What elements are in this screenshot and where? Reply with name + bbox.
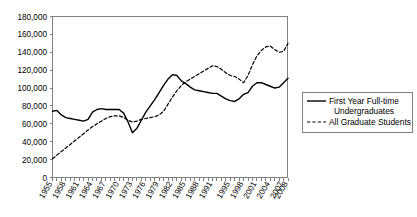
y-axis-tick-labels: 180,000160,000140,000120,000100,00080,00… bbox=[17, 13, 47, 183]
legend-label-graduates-line1: All Graduate Students bbox=[329, 117, 411, 127]
chart-figure: 180,000160,000140,000120,000100,00080,00… bbox=[0, 0, 417, 217]
y-axis-tick-label: 60,000 bbox=[22, 120, 47, 129]
series-lines bbox=[53, 43, 289, 158]
y-axis-tick-label: 120,000 bbox=[17, 66, 47, 75]
y-axis-tick-label: 100,000 bbox=[17, 84, 47, 93]
series-line-solid bbox=[53, 75, 289, 133]
y-axis-tick-label: 160,000 bbox=[17, 30, 47, 39]
x-axis-tick-label: 1991 bbox=[197, 180, 214, 201]
y-axis-tick-label: 140,000 bbox=[17, 48, 47, 57]
line-chart: 180,000160,000140,000120,000100,00080,00… bbox=[0, 0, 417, 217]
legend-label-undergraduates-line1: First Year Full-time bbox=[329, 96, 399, 106]
y-axis-tick-label: 20,000 bbox=[22, 156, 47, 165]
series-line-dashed bbox=[53, 43, 289, 158]
legend: First Year Full-time Undergraduates All … bbox=[303, 93, 413, 133]
y-axis-tick-label: 40,000 bbox=[22, 138, 47, 147]
y-axis-tick-label: 180,000 bbox=[17, 13, 47, 22]
y-axis-tick-label: 80,000 bbox=[22, 102, 47, 111]
legend-label-undergraduates-line2: Undergraduates bbox=[334, 106, 394, 116]
x-axis-tick-labels: 1955195819611964196719701973197619791982… bbox=[37, 180, 290, 201]
